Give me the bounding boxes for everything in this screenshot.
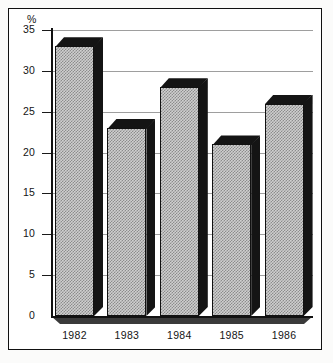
x-axis-label: 1986 bbox=[259, 329, 310, 341]
x-axis-label: 1983 bbox=[101, 329, 152, 341]
bar-front-face bbox=[107, 128, 146, 316]
bar-front-face bbox=[55, 46, 94, 316]
x-axis-label: 1985 bbox=[206, 329, 257, 341]
y-axis-tick bbox=[42, 71, 51, 72]
y-axis-label: 20 bbox=[13, 146, 35, 158]
y-axis-tick bbox=[42, 193, 51, 194]
bar[interactable] bbox=[212, 144, 251, 316]
y-axis-label: 25 bbox=[13, 105, 35, 117]
y-axis-tick bbox=[42, 234, 51, 235]
y-axis-label: 10 bbox=[13, 227, 35, 239]
y-axis-tick bbox=[42, 275, 51, 276]
bar-chart: % 35302520151050 19821983198419851986 bbox=[0, 0, 333, 363]
y-axis-label: 30 bbox=[13, 64, 35, 76]
bar-front-face bbox=[212, 144, 251, 316]
y-axis-label: 35 bbox=[13, 23, 35, 35]
x-axis-baseline bbox=[51, 316, 313, 318]
y-axis-tick bbox=[42, 112, 51, 113]
y-axis-line bbox=[51, 28, 53, 318]
bar-side-face bbox=[199, 78, 208, 316]
bar[interactable] bbox=[160, 87, 199, 316]
bar-side-face bbox=[251, 135, 260, 316]
x-axis-label: 1984 bbox=[154, 329, 205, 341]
gridline bbox=[51, 30, 313, 31]
bar[interactable] bbox=[265, 104, 304, 316]
y-axis-label: 15 bbox=[13, 186, 35, 198]
bar[interactable] bbox=[55, 46, 94, 316]
y-axis-tick bbox=[42, 153, 51, 154]
bar[interactable] bbox=[107, 128, 146, 316]
y-axis-label: 5 bbox=[13, 268, 35, 280]
bar-front-face bbox=[160, 87, 199, 316]
bar-front-face bbox=[265, 104, 304, 316]
bar-side-face bbox=[304, 95, 313, 316]
bar-side-face bbox=[146, 119, 155, 316]
x-axis-label: 1982 bbox=[49, 329, 100, 341]
y-axis-tick bbox=[42, 30, 51, 31]
y-axis-label: 0 bbox=[13, 309, 35, 321]
bar-side-face bbox=[94, 37, 103, 316]
